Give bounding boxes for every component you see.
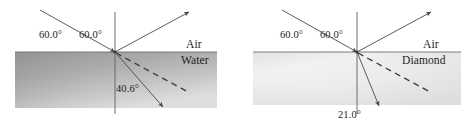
upper-medium-label-water-panel: Air xyxy=(186,39,202,51)
incidence-angle-label-diamond: 60.0° xyxy=(280,30,303,41)
incidence-point xyxy=(355,50,358,53)
lower-medium-label-water: Water xyxy=(181,55,209,67)
refraction-angle-label-diamond: 21.0° xyxy=(338,110,361,121)
lower-medium-label-diamond: Diamond xyxy=(402,55,446,67)
upper-medium-label-diamond-panel: Air xyxy=(423,39,439,51)
reflection-angle-label-water: 60.0° xyxy=(79,30,102,41)
reflected-ray xyxy=(115,12,189,52)
reflection-angle-label-diamond: 60.0° xyxy=(320,30,343,41)
refraction-figure: 60.0° 60.0° 40.6° Air Water 60.0° 60.0° … xyxy=(0,0,473,126)
refraction-angle-label-water: 40.6° xyxy=(116,84,139,95)
incidence-point xyxy=(113,50,116,53)
incidence-angle-label-water: 60.0° xyxy=(39,30,62,41)
reflected-ray xyxy=(357,12,431,52)
